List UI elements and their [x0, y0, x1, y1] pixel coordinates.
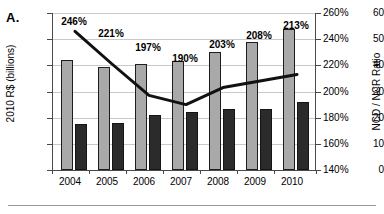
- data-label-ratio: 203%: [209, 39, 235, 50]
- x-axis-tick: [89, 170, 90, 174]
- x-axis-tick: [237, 170, 238, 174]
- y-axis-right-title: NCD / NCR Ratio: [371, 27, 382, 157]
- x-axis-tick: [126, 170, 127, 174]
- data-label-ratio: 213%: [283, 20, 309, 31]
- x-axis-tick: [163, 170, 164, 174]
- data-label-ratio: 246%: [61, 16, 87, 27]
- y-axis-left-title: 2010 R$ (billions): [5, 19, 16, 149]
- y-axis-right-tick-label: 200%: [323, 87, 365, 97]
- footer-divider: [8, 205, 376, 206]
- y-axis-right-tick-label: 260%: [323, 8, 365, 18]
- plot-area: [52, 13, 316, 170]
- y-axis-right-tick-label: 160%: [323, 139, 365, 149]
- x-axis-line: [52, 170, 316, 171]
- y-axis-right-tick-label: 180%: [323, 113, 365, 123]
- ratio-line: [53, 13, 317, 170]
- x-axis-tick: [274, 170, 275, 174]
- data-label-ratio: 208%: [246, 30, 272, 41]
- y-axis-right-tick-label: 240%: [323, 34, 365, 44]
- x-axis-tick: [200, 170, 201, 174]
- data-label-ratio: 221%: [98, 28, 124, 39]
- data-label-ratio: 197%: [135, 42, 161, 53]
- x-axis-tick: [52, 170, 53, 174]
- x-axis-tick: [316, 170, 317, 174]
- chart-figure: A. 60 50 40 30 20 10 0 260% 240% 220% 20…: [0, 0, 384, 214]
- y-axis-right-tick-label: 140%: [323, 165, 365, 175]
- y-axis-right-tick-label: 220%: [323, 60, 365, 70]
- data-label-ratio: 190%: [172, 53, 198, 64]
- x-axis-label: 2010: [270, 176, 314, 187]
